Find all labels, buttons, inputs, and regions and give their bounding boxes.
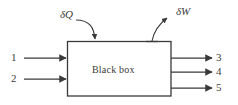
work-flux-curved-arrow [152, 18, 167, 41]
inlet-stream-label-1: 1 [11, 52, 17, 63]
inlet-arrow-group [24, 58, 66, 79]
box-caption: Black box [92, 64, 135, 75]
outlet-stream-label-4: 4 [216, 66, 222, 77]
outlet-arrow-group [171, 58, 212, 88]
diagram-canvas [0, 0, 238, 105]
heat-flux-label: δQ [60, 9, 73, 20]
outlet-stream-label-3: 3 [216, 52, 222, 63]
inlet-stream-label-2: 2 [11, 73, 17, 84]
work-flux-label: δW [176, 6, 190, 17]
black-box-diagram: Black box 1 2 3 4 5 δQ δW [0, 0, 238, 105]
outlet-stream-label-5: 5 [216, 82, 222, 93]
heat-flux-curved-arrow [76, 20, 95, 39]
